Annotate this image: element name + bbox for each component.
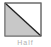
diagonal-half-fill-icon xyxy=(4,2,42,37)
half-fill-option-tile[interactable]: Half xyxy=(0,0,51,47)
tile-label: Half xyxy=(0,38,51,47)
